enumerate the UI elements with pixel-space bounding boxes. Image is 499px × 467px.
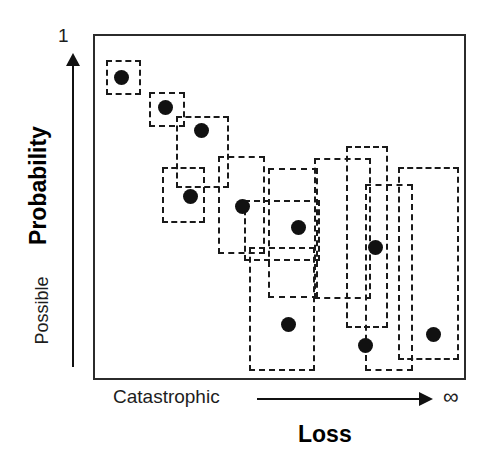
data-point (235, 199, 250, 214)
data-point (358, 338, 373, 353)
data-point (368, 240, 383, 255)
data-point (114, 70, 129, 85)
data-point (291, 220, 306, 235)
data-point (194, 123, 209, 138)
uncertainty-box (314, 158, 371, 299)
risk-probability-loss-figure: 1 Possible Probability Catastrophic ∞ Lo… (0, 0, 499, 467)
x-axis-arrow-line (257, 398, 422, 400)
data-point (281, 317, 296, 332)
uncertainty-box (249, 247, 315, 371)
x-axis-arrowhead-icon (419, 392, 433, 406)
x-axis-low-label: Catastrophic (113, 386, 220, 408)
y-axis-title: Probability (25, 96, 52, 276)
uncertainty-box (244, 200, 320, 261)
y-axis-top-tick-label: 1 (58, 26, 69, 45)
data-point (158, 100, 173, 115)
data-point (426, 327, 441, 342)
y-axis-bottom-tick-label: Possible (32, 266, 53, 356)
y-axis-arrow-line (72, 62, 74, 367)
x-axis-title: Loss (298, 421, 352, 448)
data-point (183, 189, 198, 204)
plot-area (93, 34, 466, 380)
x-axis-high-label: ∞ (443, 384, 459, 410)
